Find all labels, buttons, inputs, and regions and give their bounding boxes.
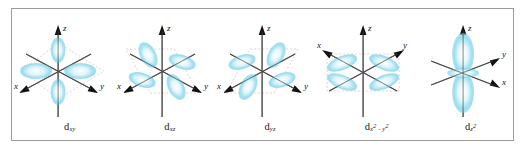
dyz-label-sub: yz — [270, 125, 276, 132]
y-axis-label: y — [203, 81, 208, 91]
x-axis-arrowhead — [224, 85, 235, 93]
y-axis-arrowhead — [192, 85, 203, 93]
z-axis-label: z — [467, 23, 472, 33]
dx2y2-diagram: z y x — [313, 9, 413, 140]
lobe-upper-right — [263, 39, 290, 71]
lobe-lower-left — [235, 71, 262, 103]
z-axis-label: z — [367, 23, 372, 33]
x-axis-label: x — [13, 81, 18, 91]
z-axis-label: z — [267, 23, 272, 33]
dxz-label-sub: xz — [170, 125, 176, 132]
dz2-diagram: z x y — [413, 9, 513, 140]
dx2y2-label: dx2 - y2 — [365, 121, 389, 132]
dx2y2-label-sub: x2 - y2 — [370, 125, 389, 132]
y-axis-arrowhead — [292, 85, 303, 93]
y-axis-label: y — [402, 40, 407, 50]
y-axis-arrowhead — [393, 50, 404, 59]
dxz-label: dxz — [164, 121, 175, 132]
y-axis-label: y — [99, 81, 104, 91]
orbital-panel-dxy: z y x dxy — [12, 9, 112, 140]
orbital-panel-row: z y x dxy — [12, 9, 513, 140]
x-axis-label: x — [316, 40, 321, 50]
x-axis-label: x — [116, 81, 121, 91]
dxy-label: dxy — [64, 121, 75, 132]
x-axis-arrowhead — [19, 85, 30, 93]
y-axis-arrowhead — [490, 58, 500, 67]
dyz-diagram: z y x — [212, 9, 312, 140]
d-orbital-figure: z y x dxy — [0, 0, 525, 157]
z-axis-label: z — [166, 23, 171, 33]
dxy-label-sub: xy — [69, 125, 75, 132]
z-axis-label: z — [62, 23, 67, 33]
orbital-panel-dxz: z y x dxz — [112, 9, 212, 140]
lobe-upper-left — [135, 39, 162, 71]
x-axis-label: x — [217, 81, 222, 91]
dxz-diagram: z y x — [112, 9, 212, 140]
orbital-panel-dz2: z x y dz2 — [413, 9, 513, 140]
y-axis-arrowhead — [88, 85, 99, 93]
dz2-label-sub: z2 — [470, 125, 476, 132]
orbital-panel-dx2y2: z y x dx2 - y2 — [313, 9, 413, 140]
x-axis-arrowhead — [322, 50, 333, 59]
lobe-upper-right — [167, 51, 198, 73]
y-axis-label: y — [304, 81, 309, 91]
x-axis-arrowhead — [490, 79, 500, 88]
dz2-label: dz2 — [465, 121, 476, 132]
lobe-lower-right — [163, 71, 190, 103]
x-axis-arrowhead — [123, 85, 134, 93]
orbital-panel-dyz: z y x dyz — [212, 9, 312, 140]
x-axis-label: x — [501, 77, 506, 87]
dyz-label: dyz — [265, 121, 276, 132]
dxy-diagram: z y x — [12, 9, 112, 140]
y-axis-label: y — [501, 49, 506, 59]
